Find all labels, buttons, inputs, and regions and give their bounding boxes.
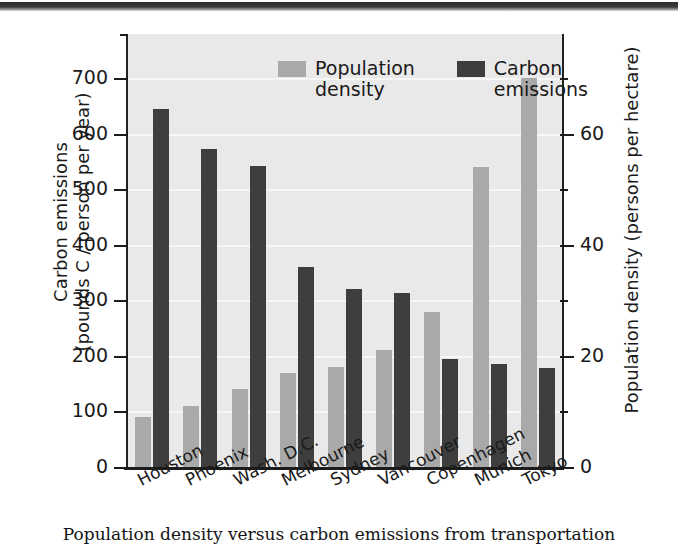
- right-axis-tick-label: 0: [580, 457, 630, 476]
- legend-item-carbon-emissions: Carbon emissions: [457, 58, 588, 100]
- left-axis-tick-label: 600: [52, 124, 108, 143]
- left-axis-minor-tick: [120, 34, 128, 36]
- plot-area: Population density Carbon emissions: [126, 34, 564, 467]
- bar-group: [224, 34, 272, 467]
- right-axis-tick: [560, 356, 574, 358]
- bar-carbon-emissions: [250, 166, 266, 467]
- chart-figure: Carbon emissions (pounds C / person per …: [0, 14, 678, 506]
- bar-population-density: [521, 78, 537, 467]
- right-axis-tick-label: 40: [580, 235, 630, 254]
- right-axis-tick-label: 20: [580, 346, 630, 365]
- left-axis-tick-label: 0: [52, 457, 108, 476]
- legend-swatch-carbon-emissions: [457, 61, 485, 77]
- left-axis-tick: [114, 189, 128, 191]
- right-axis-minor-tick: [560, 411, 568, 413]
- x-axis-category-labels: HoustonPhoenixWash. D.C.MelbourneSydneyV…: [126, 472, 560, 506]
- figure-caption: Population density versus carbon emissio…: [0, 524, 678, 544]
- bar-carbon-emissions: [153, 109, 169, 467]
- left-axis-tick: [114, 411, 128, 413]
- bar-group: [128, 34, 176, 467]
- bar-group: [176, 34, 224, 467]
- right-axis-minor-tick: [560, 300, 568, 302]
- left-axis-tick: [114, 300, 128, 302]
- bar-population-density: [135, 417, 151, 467]
- right-axis-tick-label: 60: [580, 124, 630, 143]
- chart-legend: Population density Carbon emissions: [278, 58, 588, 100]
- left-axis-tick: [114, 134, 128, 136]
- left-axis-tick-label: 300: [52, 290, 108, 309]
- left-axis-tick-label: 200: [52, 346, 108, 365]
- page-scan-bar: [0, 2, 678, 11]
- bar-carbon-emissions: [201, 149, 217, 467]
- right-axis-tick: [560, 245, 574, 247]
- left-axis-tick-label: 400: [52, 235, 108, 254]
- right-axis-tick: [560, 134, 574, 136]
- left-axis-tick: [114, 356, 128, 358]
- bar-population-density: [473, 167, 489, 467]
- bar-carbon-emissions: [539, 368, 555, 467]
- left-axis-tick-label: 700: [52, 68, 108, 87]
- left-axis-tick-label: 100: [52, 401, 108, 420]
- left-axis-tick-label: 500: [52, 179, 108, 198]
- right-axis-title: Population density (persons per hectare): [621, 30, 643, 430]
- right-axis-minor-tick: [560, 189, 568, 191]
- bar-carbon-emissions: [394, 293, 410, 467]
- left-axis-tick: [114, 245, 128, 247]
- legend-label-carbon-emissions: Carbon emissions: [494, 58, 588, 100]
- legend-item-population-density: Population density: [278, 58, 415, 100]
- left-axis-tick: [114, 78, 128, 80]
- left-axis-tick: [114, 467, 128, 469]
- legend-label-population-density: Population density: [315, 58, 415, 100]
- legend-swatch-population-density: [278, 61, 306, 77]
